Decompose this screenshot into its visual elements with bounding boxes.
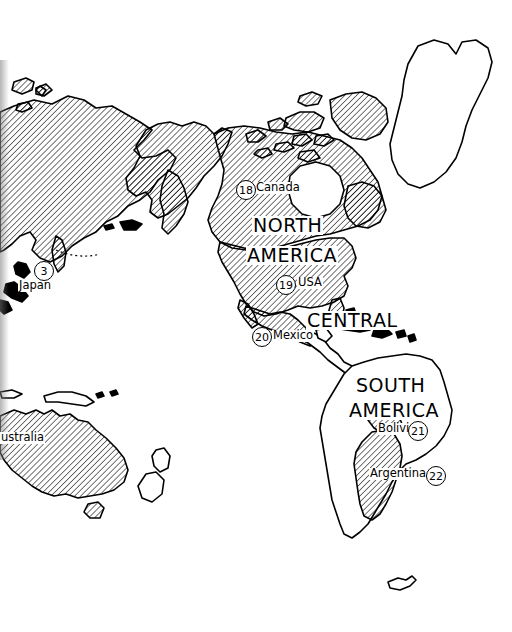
landmass-new-zealand-south [138,472,164,502]
marker-bolivia[interactable]: 21 [408,421,428,441]
landmass-new-zealand-north [152,448,170,472]
landmass-aleutians [120,220,142,230]
landmass-aleutians-dot [104,224,114,230]
landmass-png [44,392,94,406]
island-dot-b [110,390,118,396]
landmass-group [0,40,492,590]
landmass-victoria-island [284,112,324,132]
country-label-mexico: Mexico [272,330,314,342]
landmass-japan-north [14,262,30,278]
landmass-baffin-island [330,92,388,140]
island-dot-a [96,392,104,398]
region-label-central-america: CENTRAL [306,311,399,330]
region-label-north-america-2: AMERICA [246,246,338,265]
world-map: NORTH AMERICA CENTRAL SOUTH AMERICA Japa… [0,0,512,632]
country-label-japan: Japan [18,280,52,292]
region-label-south-america-2: AMERICA [348,401,440,420]
marker-japan[interactable]: 3 [34,261,54,281]
marker-argentina[interactable]: 22 [426,466,446,486]
landmass-arctic-isle-1 [298,92,322,106]
landmass-puerto-rico [396,330,406,338]
region-label-south-america: SOUTH [355,376,426,395]
marker-canada[interactable]: 18 [236,180,256,200]
country-label-argentina: Argentina [369,468,427,480]
marker-usa[interactable]: 19 [276,275,296,295]
landmass-tasmania [84,502,104,518]
landmass-australia [0,410,128,498]
landmass-lesser-antilles [408,334,416,342]
country-label-canada: Canada [255,182,301,194]
region-label-north-america: NORTH [252,216,323,235]
landmass-greenland [390,40,492,188]
map-canvas [0,0,512,632]
landmass-falklands [388,576,416,590]
country-label-australia: ustralia [0,432,45,444]
left-edge-shading [0,60,9,460]
marker-mexico[interactable]: 20 [252,327,272,347]
landmass-arctic-island-a [12,78,34,94]
country-label-usa: USA [297,277,323,289]
